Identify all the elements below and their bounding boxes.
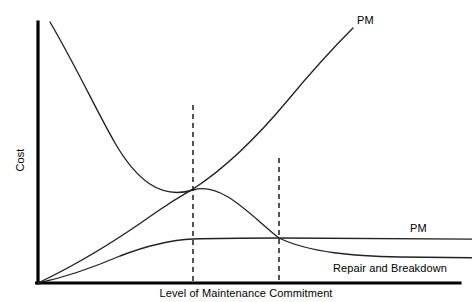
maintenance-cost-chart: PM PM Repair and Breakdown Cost Level of… bbox=[0, 0, 472, 302]
curve-pm-levelling bbox=[38, 238, 472, 283]
x-axis-title: Level of Maintenance Commitment bbox=[159, 287, 332, 299]
curve-pm-rising bbox=[38, 28, 353, 283]
curve-repair-and-breakdown bbox=[50, 22, 472, 258]
series-label-repair-and-breakdown: Repair and Breakdown bbox=[333, 262, 447, 274]
series-label-pm-rising: PM bbox=[357, 14, 374, 26]
series-label-pm-levelling: PM bbox=[410, 222, 427, 234]
chart-canvas: PM PM Repair and Breakdown Cost Level of… bbox=[0, 0, 472, 302]
y-axis-title: Cost bbox=[14, 148, 26, 171]
